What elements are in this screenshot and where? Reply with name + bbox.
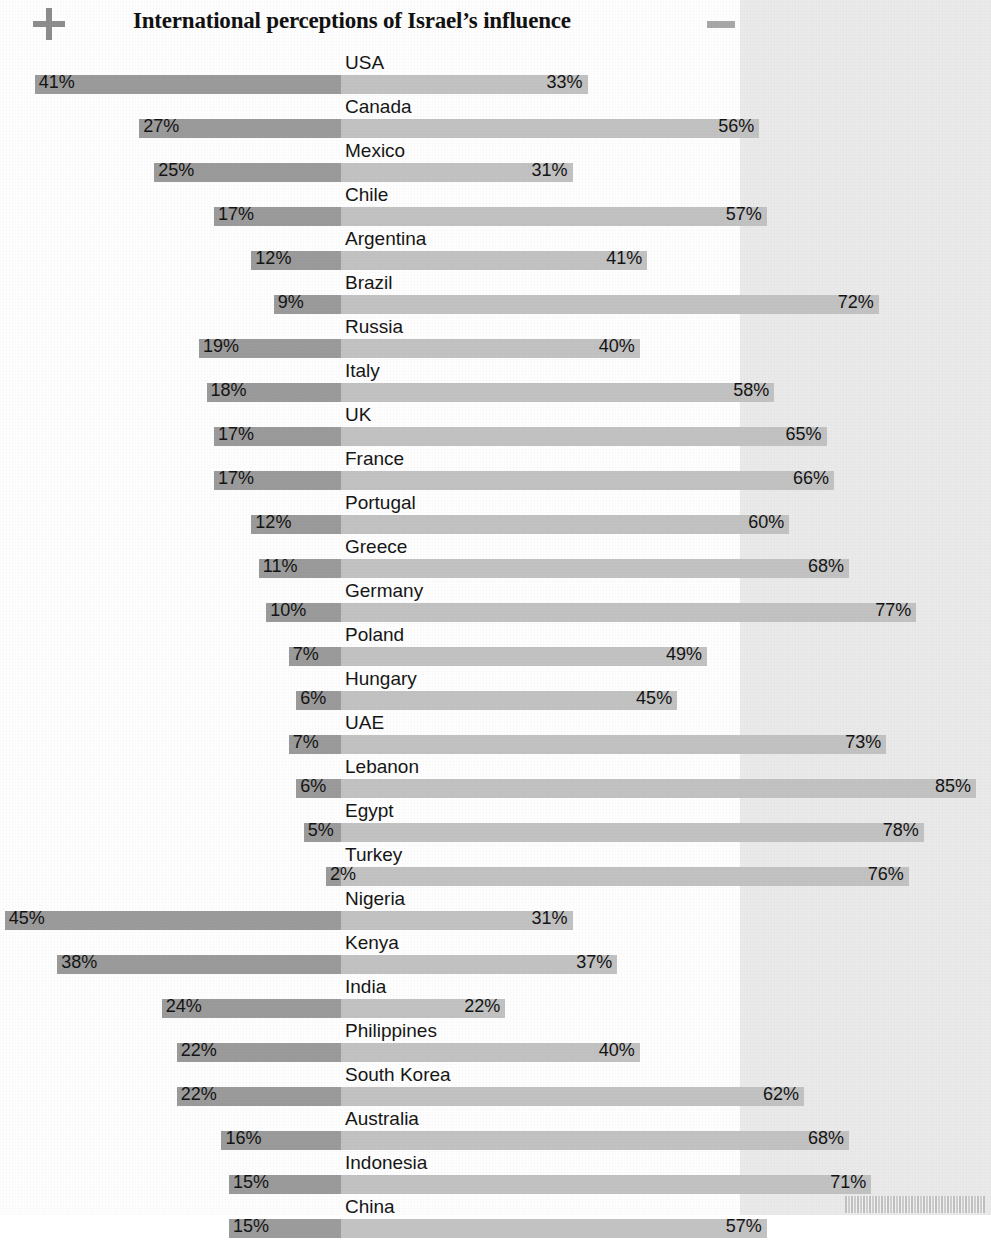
chart-row: UK17%65% — [0, 406, 991, 450]
value-label-negative: 49% — [0, 645, 702, 664]
chart-row: Poland7%49% — [0, 626, 991, 670]
country-label: Nigeria — [345, 888, 405, 910]
country-label: India — [345, 976, 386, 998]
chart-row: India24%22% — [0, 978, 991, 1022]
country-label: Germany — [345, 580, 423, 602]
page-title: International perceptions of Israel’s in… — [133, 8, 653, 34]
chart-row: France17%66% — [0, 450, 991, 494]
value-label-negative: 76% — [0, 865, 904, 884]
diverging-bar-chart: USA41%33%Canada27%56%Mexico25%31%Chile17… — [0, 48, 991, 1198]
value-label-negative: 68% — [0, 557, 844, 576]
chart-row: Canada27%56% — [0, 98, 991, 142]
country-label: Lebanon — [345, 756, 419, 778]
country-label: Poland — [345, 624, 404, 646]
chart-row: China15%57% — [0, 1198, 991, 1242]
barcode-stub — [845, 1196, 985, 1213]
value-label-negative: 31% — [0, 161, 568, 180]
value-label-negative: 33% — [0, 73, 583, 92]
chart-row: Brazil9%72% — [0, 274, 991, 318]
country-label: Philippines — [345, 1020, 437, 1042]
chart-row: Russia19%40% — [0, 318, 991, 362]
chart-row: USA41%33% — [0, 54, 991, 98]
value-label-negative: 58% — [0, 381, 769, 400]
country-label: UAE — [345, 712, 384, 734]
country-label: Argentina — [345, 228, 426, 250]
chart-row: Australia16%68% — [0, 1110, 991, 1154]
chart-row: Italy18%58% — [0, 362, 991, 406]
value-label-negative: 40% — [0, 337, 635, 356]
chart-row: Egypt5%78% — [0, 802, 991, 846]
chart-row: Turkey2%76% — [0, 846, 991, 890]
value-label-negative: 57% — [0, 205, 762, 224]
value-label-negative: 22% — [0, 997, 500, 1016]
country-label: Chile — [345, 184, 388, 206]
chart-row: Chile17%57% — [0, 186, 991, 230]
value-label-negative: 68% — [0, 1129, 844, 1148]
country-label: Canada — [345, 96, 412, 118]
value-label-negative: 71% — [0, 1173, 866, 1192]
country-label: South Korea — [345, 1064, 451, 1086]
chart-row: Greece11%68% — [0, 538, 991, 582]
chart-row: UAE7%73% — [0, 714, 991, 758]
chart-row: Mexico25%31% — [0, 142, 991, 186]
value-label-negative: 45% — [0, 689, 672, 708]
value-label-negative: 78% — [0, 821, 919, 840]
country-label: Hungary — [345, 668, 417, 690]
chart-header: International perceptions of Israel’s in… — [0, 0, 991, 48]
value-label-negative: 41% — [0, 249, 642, 268]
country-label: Indonesia — [345, 1152, 427, 1174]
value-label-negative: 37% — [0, 953, 612, 972]
country-label: France — [345, 448, 404, 470]
value-label-negative: 66% — [0, 469, 829, 488]
country-label: Italy — [345, 360, 380, 382]
value-label-negative: 73% — [0, 733, 881, 752]
country-label: Turkey — [345, 844, 402, 866]
country-label: Kenya — [345, 932, 399, 954]
plus-icon[interactable] — [33, 8, 65, 40]
country-label: Mexico — [345, 140, 405, 162]
chart-row: South Korea22%62% — [0, 1066, 991, 1110]
chart-row: Hungary6%45% — [0, 670, 991, 714]
value-label-negative: 40% — [0, 1041, 635, 1060]
value-label-negative: 56% — [0, 117, 754, 136]
chart-row: Portugal12%60% — [0, 494, 991, 538]
value-label-negative: 57% — [0, 1217, 762, 1236]
country-label: Russia — [345, 316, 403, 338]
country-label: China — [345, 1196, 395, 1218]
chart-row: Philippines22%40% — [0, 1022, 991, 1066]
value-label-negative: 62% — [0, 1085, 799, 1104]
value-label-negative: 31% — [0, 909, 568, 928]
value-label-negative: 60% — [0, 513, 784, 532]
country-label: UK — [345, 404, 371, 426]
country-label: USA — [345, 52, 384, 74]
country-label: Greece — [345, 536, 407, 558]
chart-row: Argentina12%41% — [0, 230, 991, 274]
country-label: Australia — [345, 1108, 419, 1130]
value-label-negative: 77% — [0, 601, 911, 620]
country-label: Egypt — [345, 800, 394, 822]
value-label-negative: 85% — [0, 777, 971, 796]
chart-row: Kenya38%37% — [0, 934, 991, 978]
country-label: Brazil — [345, 272, 393, 294]
value-label-negative: 72% — [0, 293, 874, 312]
country-label: Portugal — [345, 492, 416, 514]
chart-row: Germany10%77% — [0, 582, 991, 626]
minus-icon[interactable] — [707, 21, 735, 28]
chart-row: Nigeria45%31% — [0, 890, 991, 934]
chart-row: Lebanon6%85% — [0, 758, 991, 802]
value-label-negative: 65% — [0, 425, 822, 444]
chart-row: Indonesia15%71% — [0, 1154, 991, 1198]
